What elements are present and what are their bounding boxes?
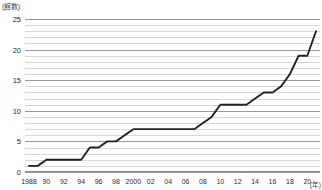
y-tick-label: 10 [1,106,21,115]
y-tick-label: 5 [1,137,21,146]
x-tick-label: 1988 [21,178,37,185]
y-tick-label: 15 [1,76,21,85]
x-tick-label: 02 [147,178,155,185]
x-tick-label: 06 [182,178,190,185]
plot-area: 0510152025 19889092949698200002040608101… [25,19,320,172]
x-tick-label: 14 [251,178,259,185]
x-tick-label: 2000 [126,178,142,185]
x-tick-label: 96 [95,178,103,185]
x-tick-label: 18 [286,178,294,185]
x-tick-label: 94 [77,178,85,185]
y-tick-label: 0 [1,168,21,177]
line-chart: (館数) 0510152025 198890929496982000020406… [0,0,322,190]
y-tick-label: 25 [1,15,21,24]
gridline [25,172,320,173]
x-tick-label: 12 [234,178,242,185]
x-axis-unit-label: (年) [310,179,321,189]
x-tick-label: 10 [216,178,224,185]
series-polyline [29,31,316,166]
x-tick-label: 16 [269,178,277,185]
x-tick-label: 90 [42,178,50,185]
x-tick-label: 08 [199,178,207,185]
x-tick-label: 04 [164,178,172,185]
y-tick-label: 20 [1,45,21,54]
data-series-line [25,19,320,172]
x-tick-label: 92 [60,178,68,185]
y-axis-unit-label: (館数) [2,1,20,11]
x-tick-label: 98 [112,178,120,185]
